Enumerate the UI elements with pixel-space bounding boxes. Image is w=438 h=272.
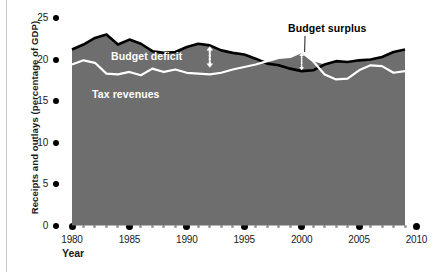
plot-area xyxy=(0,0,438,272)
area-fill xyxy=(72,35,405,226)
chart-figure: Receipts and outlays (percentage of GDP)… xyxy=(0,0,438,272)
x-axis-title: Year xyxy=(62,247,84,259)
annotation-label-budget-surplus: Budget surplus xyxy=(288,22,366,34)
annotation-label-budget-deficit: Budget deficit xyxy=(111,50,182,62)
series-label-tax-revenues: Tax revenues xyxy=(92,88,160,100)
series-label-outlays: Outlays xyxy=(117,22,156,34)
